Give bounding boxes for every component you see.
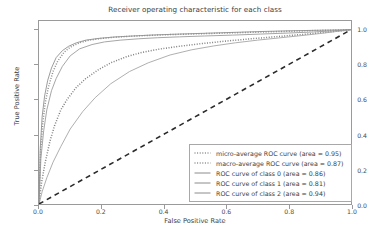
legend-item: macro-average ROC curve (area = 0.87) (194, 158, 347, 168)
legend-box: micro-average ROC curve (area = 0.95)mac… (189, 144, 352, 202)
x-tick-label: 0.8 (274, 208, 304, 215)
x-tick-label: 1.0 (337, 208, 367, 215)
x-tick-mark (164, 205, 165, 209)
x-tick-mark (101, 205, 102, 209)
x-tick-mark (289, 205, 290, 209)
x-tick-mark (38, 205, 39, 209)
legend-line-swatch (194, 169, 211, 177)
roc-figure: Receiver operating characteristic for ea… (0, 0, 367, 233)
legend-item: ROC curve of class 0 (area = 0.86) (194, 168, 347, 178)
legend-item-label: macro-average ROC curve (area = 0.87) (216, 159, 344, 168)
x-tick-label: 0.6 (211, 208, 241, 215)
legend-item: ROC curve of class 1 (area = 0.81) (194, 178, 347, 188)
y-axis-label: True Positive Rate (13, 46, 21, 146)
legend-item-label: ROC curve of class 1 (area = 0.81) (216, 179, 325, 188)
legend-item: micro-average ROC curve (area = 0.95) (194, 148, 347, 158)
legend-item-label: micro-average ROC curve (area = 0.95) (216, 149, 341, 158)
x-tick-label: 0.0 (23, 208, 53, 215)
x-tick-label: 0.2 (86, 208, 116, 215)
legend-item: ROC curve of class 2 (area = 0.94) (194, 188, 347, 198)
x-tick-label: 0.4 (149, 208, 179, 215)
legend-line-swatch (194, 179, 211, 187)
x-tick-mark (352, 205, 353, 209)
x-tick-mark (226, 205, 227, 209)
legend-line-swatch (194, 159, 211, 167)
legend-line-swatch (194, 189, 211, 197)
x-axis-label: False Positive Rate (38, 217, 352, 225)
legend-line-swatch (194, 149, 211, 157)
legend-item-label: ROC curve of class 0 (area = 0.86) (216, 169, 325, 178)
chart-title: Receiver operating characteristic for ea… (38, 5, 352, 14)
legend-item-label: ROC curve of class 2 (area = 0.94) (216, 189, 325, 198)
